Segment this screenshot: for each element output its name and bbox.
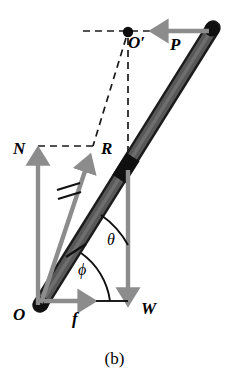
dashed-diagonal-o-prime-to-r bbox=[93, 38, 126, 146]
hash-mark-upper bbox=[57, 183, 80, 190]
dashed-construction-lines bbox=[38, 31, 213, 169]
label-force-r: R bbox=[101, 140, 112, 157]
label-force-n: N bbox=[13, 140, 25, 157]
force-diagram-svg bbox=[0, 0, 229, 379]
label-o-prime: O′ bbox=[128, 34, 145, 51]
figure-caption: (b) bbox=[0, 350, 229, 367]
label-force-w: W bbox=[141, 300, 156, 317]
label-force-f: f bbox=[72, 310, 78, 327]
label-force-p: P bbox=[170, 36, 180, 53]
label-angle-theta: θ bbox=[107, 232, 115, 248]
label-origin-o: O bbox=[13, 306, 25, 323]
figure-container: O′ P N R θ ϕ O f W (b) bbox=[0, 0, 229, 379]
label-angle-phi: ϕ bbox=[78, 262, 86, 278]
